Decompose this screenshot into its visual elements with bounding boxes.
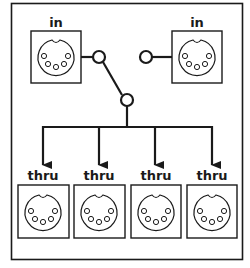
thru-label-4: thru	[196, 168, 227, 183]
thru-label-2: thru	[83, 168, 114, 183]
input-port-right: in	[172, 15, 222, 83]
thru-bus	[42, 106, 213, 165]
switch-lever	[103, 62, 122, 95]
thru-port-2: thru	[74, 168, 125, 238]
midi-switch-diagram: in in thru thru thru	[0, 0, 250, 268]
switch-contact-right	[140, 51, 152, 63]
input-port-left: in	[31, 15, 81, 83]
switch-common	[121, 94, 133, 106]
selector-switch	[81, 51, 172, 106]
input-label-left: in	[49, 15, 63, 30]
switch-contact-left	[93, 51, 105, 63]
thru-label-3: thru	[140, 168, 171, 183]
thru-port-1: thru	[18, 168, 69, 238]
thru-port-4: thru	[187, 168, 237, 238]
input-label-right: in	[190, 15, 204, 30]
thru-port-3: thru	[131, 168, 181, 238]
thru-label-1: thru	[27, 168, 58, 183]
